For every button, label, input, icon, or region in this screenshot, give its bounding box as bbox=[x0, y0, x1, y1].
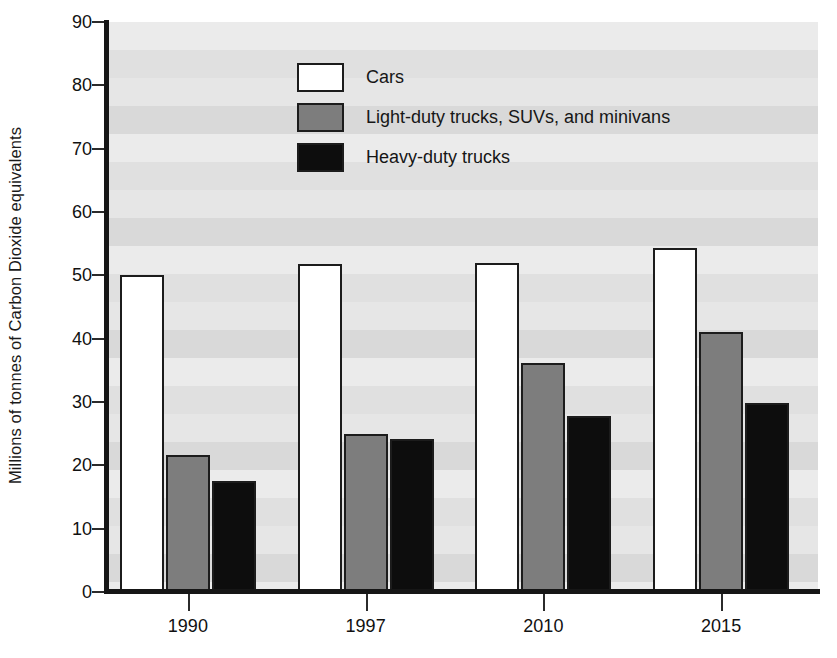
bar-2010-light-duty-trucks-suvs-and-minivans bbox=[521, 363, 565, 592]
bar-1997-heavy-duty-trucks bbox=[390, 439, 434, 592]
legend-item-light-duty-trucks: Light-duty trucks, SUVs, and minivans bbox=[297, 97, 670, 137]
y-axis-tick-label: 80 bbox=[30, 75, 92, 96]
bar-1990-cars bbox=[120, 275, 164, 592]
legend-label-heavy-duty-trucks: Heavy-duty trucks bbox=[366, 147, 510, 168]
bar-2015-light-duty-trucks-suvs-and-minivans bbox=[699, 332, 743, 592]
x-axis-tick-label-2010: 2010 bbox=[523, 616, 563, 637]
bar-2015-cars bbox=[653, 248, 697, 592]
bar-2010-heavy-duty-trucks bbox=[567, 416, 611, 592]
y-axis-tick-label: 20 bbox=[30, 455, 92, 476]
legend-swatch-cars bbox=[297, 63, 344, 92]
y-axis-tick-label: 0 bbox=[30, 582, 92, 603]
legend-swatch-light-duty-trucks bbox=[297, 103, 344, 132]
x-axis-tick-mark bbox=[721, 594, 723, 611]
legend-label-light-duty-trucks: Light-duty trucks, SUVs, and minivans bbox=[366, 107, 670, 128]
bar-1990-light-duty-trucks-suvs-and-minivans bbox=[166, 455, 210, 592]
y-axis-tick-label: 90 bbox=[30, 12, 92, 33]
legend-label-cars: Cars bbox=[366, 67, 404, 88]
bar-2015-heavy-duty-trucks bbox=[745, 403, 789, 592]
x-axis-tick-label-1997: 1997 bbox=[346, 616, 386, 637]
bar-1997-light-duty-trucks-suvs-and-minivans bbox=[344, 434, 388, 592]
bar-1990-heavy-duty-trucks bbox=[212, 481, 256, 592]
y-axis-title-text: Millions of tonnes of Carbon Dioxide equ… bbox=[6, 127, 25, 484]
y-axis-tick-label: 30 bbox=[30, 392, 92, 413]
chart-legend: Cars Light-duty trucks, SUVs, and miniva… bbox=[297, 57, 670, 177]
legend-swatch-heavy-duty-trucks bbox=[297, 143, 344, 172]
x-axis-tick-label-2015: 2015 bbox=[701, 616, 741, 637]
y-axis-tick-label: 40 bbox=[30, 328, 92, 349]
y-axis-spine bbox=[104, 20, 109, 594]
x-axis-tick-mark bbox=[188, 594, 190, 611]
x-axis-tick-mark bbox=[543, 594, 545, 611]
legend-item-heavy-duty-trucks: Heavy-duty trucks bbox=[297, 137, 670, 177]
y-axis-tick-label: 50 bbox=[30, 265, 92, 286]
chart-figure: Millions of tonnes of Carbon Dioxide equ… bbox=[0, 0, 837, 658]
y-axis-tick-labels: 0102030405060708090 bbox=[30, 0, 92, 658]
bar-1997-cars bbox=[298, 264, 342, 592]
x-axis-tick-label-1990: 1990 bbox=[168, 616, 208, 637]
y-axis-tick-label: 10 bbox=[30, 518, 92, 539]
y-axis-tick-label: 70 bbox=[30, 138, 92, 159]
y-axis-tick-label: 60 bbox=[30, 202, 92, 223]
x-axis-tick-mark bbox=[366, 594, 368, 611]
y-axis-title: Millions of tonnes of Carbon Dioxide equ… bbox=[0, 0, 30, 610]
legend-item-cars: Cars bbox=[297, 57, 670, 97]
bar-2010-cars bbox=[475, 263, 519, 592]
x-axis-ticks: 1990199720102015 bbox=[107, 594, 818, 654]
